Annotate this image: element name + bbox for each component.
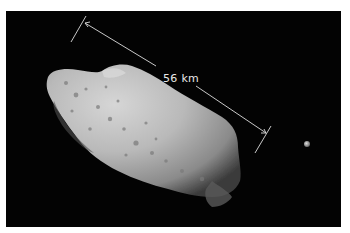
scale-tick-right (255, 126, 271, 153)
scene-graphic (6, 11, 341, 227)
scale-tick-left (71, 16, 86, 42)
scale-line-left (85, 23, 156, 66)
asteroid (47, 65, 241, 207)
scale-label: 56 km (163, 72, 199, 85)
space-image: 56 km (6, 11, 341, 227)
moon (304, 141, 310, 147)
